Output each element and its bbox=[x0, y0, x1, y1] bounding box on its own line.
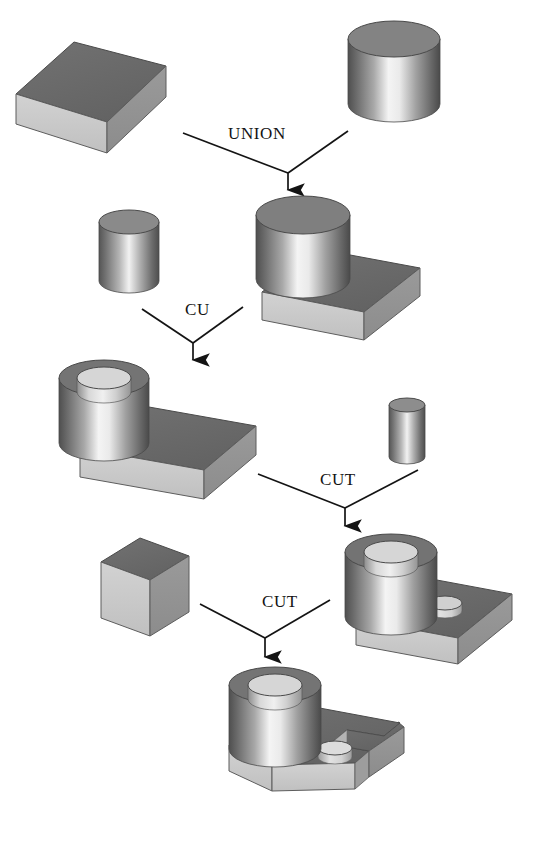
operation-label-cut-2: CUT bbox=[262, 592, 298, 612]
shape-cylinder-medium bbox=[99, 210, 159, 293]
shape-ring-block-hole bbox=[345, 534, 512, 664]
operation-label-cu: CU bbox=[185, 300, 210, 320]
operation-label-union: UNION bbox=[228, 124, 286, 144]
shape-final-part bbox=[229, 667, 404, 791]
shape-union-result bbox=[256, 196, 420, 340]
shape-block-thin bbox=[101, 538, 189, 636]
shape-ring-on-block bbox=[59, 360, 256, 499]
shape-cylinder-large bbox=[348, 21, 440, 122]
shape-cylinder-small bbox=[389, 398, 425, 464]
csg-diagram-canvas: UNION CU CUT CUT bbox=[0, 0, 543, 858]
shape-rectangular-block bbox=[16, 42, 166, 153]
operation-label-cut-1: CUT bbox=[320, 470, 356, 490]
